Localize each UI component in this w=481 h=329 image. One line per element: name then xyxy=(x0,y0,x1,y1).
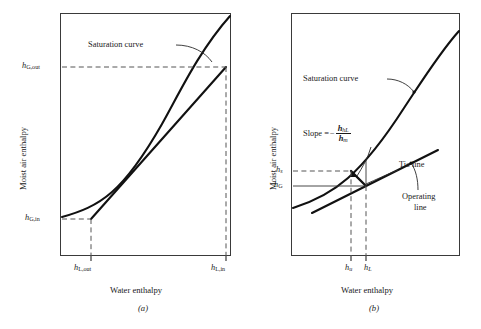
panel-b: hs hG hu hL Saturation curve Tie line Op… xyxy=(0,0,481,329)
slope-expression: Slope =− hhL hm xyxy=(303,124,351,144)
figure-root: hG,out hG,in hL,out hL,in Saturation cur… xyxy=(0,0,481,329)
leader-tie-line xyxy=(366,170,398,184)
annotation-saturation-curve-b: Saturation curve xyxy=(303,74,358,83)
slope-label: Slope = xyxy=(303,129,329,138)
panel-b-caption: (b) xyxy=(369,303,379,313)
annotation-tie-line: Tie line xyxy=(399,160,425,169)
xtick-label-hu: hu xyxy=(345,264,352,272)
annotation-operating-line-2: line xyxy=(414,203,427,212)
leader-saturation-curve-b xyxy=(387,79,414,92)
slope-numerator: hhL xyxy=(336,124,351,133)
panel-b-xlabel: Water enthalpy xyxy=(341,285,393,295)
xtick-label-hL: hL xyxy=(364,264,372,272)
slope-minus-sign: − xyxy=(329,129,336,138)
panel-b-ylabel: Moist air enthalpy xyxy=(268,127,278,190)
annotation-operating-line-1: Operating xyxy=(402,192,436,201)
saturation-curve-anchor-dot-b xyxy=(412,90,415,93)
slope-denominator: hm xyxy=(336,133,351,143)
